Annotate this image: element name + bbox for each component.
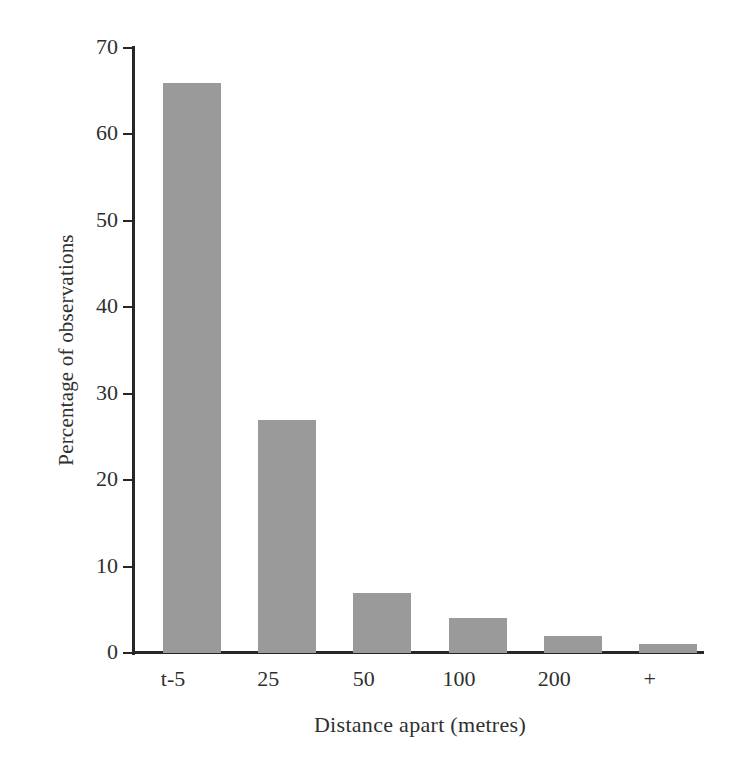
x-axis-tick-label: 100 (430, 666, 488, 691)
bar (544, 636, 602, 653)
x-axis-tick-label: 25 (239, 666, 297, 691)
y-axis-tick-label: 0 (72, 641, 118, 663)
y-axis-tick (123, 47, 134, 49)
x-axis-tick-labels: t-52550100200+ (134, 666, 706, 700)
y-axis-tick-label: 30 (72, 382, 118, 404)
plot-area (134, 48, 706, 653)
y-axis-tick (123, 652, 134, 654)
y-axis-tick (123, 566, 134, 568)
y-axis-tick-label: 70 (72, 36, 118, 58)
bar-chart-figure: Percentage of observations 0102030405060… (0, 0, 738, 774)
y-axis-tick (123, 306, 134, 308)
y-axis-tick (123, 220, 134, 222)
y-axis-tick-label: 40 (72, 295, 118, 317)
x-axis-tick-label: 50 (335, 666, 393, 691)
x-axis-title: Distance apart (metres) (134, 712, 706, 738)
y-axis-tick (123, 393, 134, 395)
y-axis-tick-label: 60 (72, 122, 118, 144)
x-axis-tick-label: + (621, 666, 679, 691)
y-axis-tick (123, 479, 134, 481)
y-axis-tick-label: 50 (72, 209, 118, 231)
bar (449, 618, 507, 653)
y-axis-tick (123, 133, 134, 135)
y-axis-tick-label: 10 (72, 555, 118, 577)
bar (353, 593, 411, 654)
x-axis-tick-label: t-5 (144, 666, 202, 691)
bar (639, 644, 697, 653)
x-axis-tick-label: 200 (525, 666, 583, 691)
bar (163, 83, 221, 653)
bar (258, 420, 316, 653)
y-axis-tick-labels: 010203040506070 (56, 0, 118, 774)
y-axis-tick-label: 20 (72, 468, 118, 490)
